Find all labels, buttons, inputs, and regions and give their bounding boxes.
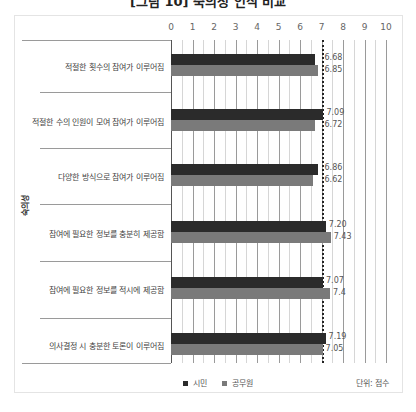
- value-label-citizen: 7.07: [326, 276, 344, 285]
- bar-official: [171, 65, 318, 76]
- x-tick-label: 2: [211, 22, 217, 32]
- major-gridline: [343, 40, 344, 363]
- x-tick-label: 1: [190, 22, 196, 32]
- value-label-official: 6.85: [325, 65, 343, 74]
- value-label-citizen: 7.09: [326, 108, 344, 117]
- bar-citizen: [171, 164, 318, 175]
- major-gridline: [300, 40, 301, 363]
- minor-gridline: [311, 40, 312, 363]
- legend-label-official: 공무원: [232, 379, 253, 388]
- value-label-official: 7.43: [334, 232, 352, 241]
- bar-citizen: [171, 333, 326, 344]
- row-label: 적절한 횟수의 참여가 이루어짐: [65, 61, 164, 72]
- major-gridline: [279, 40, 280, 363]
- legend-item-citizen: 시민: [183, 377, 207, 388]
- legend-label-citizen: 시민: [193, 379, 207, 388]
- minor-gridline: [225, 40, 226, 363]
- x-tick-label: 5: [276, 22, 282, 32]
- value-label-citizen: 6.68: [325, 53, 343, 62]
- y-axis-line: [171, 40, 172, 363]
- bar-citizen: [171, 54, 315, 65]
- legend-item-official: 공무원: [222, 377, 253, 388]
- bar-citizen: [171, 277, 323, 288]
- x-tick-label: 7: [319, 22, 325, 32]
- major-gridline: [193, 40, 194, 363]
- bar-citizen: [171, 221, 326, 232]
- row-label: 다양한 방식으로 참여가 이루어짐: [58, 171, 164, 182]
- major-gridline: [257, 40, 258, 363]
- major-gridline: [236, 40, 237, 363]
- row-label: 적절한 수의 인원이 모여 참여가 이루어짐: [32, 116, 164, 127]
- bar-official: [171, 288, 330, 299]
- unit-label: 단위: 점수: [356, 377, 389, 388]
- bottom-separator: [22, 363, 171, 364]
- x-tick-label: 0: [168, 22, 174, 32]
- top-separator: [22, 40, 171, 41]
- value-label-official: 7.05: [326, 344, 344, 353]
- value-label-citizen: 7.19: [329, 332, 347, 341]
- bar-citizen: [171, 109, 323, 120]
- minor-gridline: [375, 40, 376, 363]
- value-label-official: 6.62: [325, 175, 343, 184]
- minor-gridline: [182, 40, 183, 363]
- minor-gridline: [332, 40, 333, 363]
- chart-title: [그림 10] 숙의성 인식 비교: [0, 0, 416, 10]
- x-tick-label: 4: [254, 22, 260, 32]
- minor-gridline: [289, 40, 290, 363]
- major-gridline: [386, 40, 387, 363]
- bar-official: [171, 175, 313, 186]
- bar-official: [171, 120, 315, 131]
- row-label: 참여에 필요한 정보를 충분히 제공함: [49, 228, 164, 239]
- minor-gridline: [354, 40, 355, 363]
- value-label-official: 6.72: [325, 120, 343, 129]
- minor-gridline: [268, 40, 269, 363]
- row-separator: [40, 318, 171, 319]
- major-gridline: [365, 40, 366, 363]
- row-separator: [40, 261, 171, 262]
- row-separator: [40, 148, 171, 149]
- x-tick-label: 6: [297, 22, 303, 32]
- legend-swatch-citizen: [183, 381, 188, 386]
- minor-gridline: [203, 40, 204, 363]
- minor-gridline: [246, 40, 247, 363]
- row-separator: [40, 204, 171, 205]
- row-label: 의사결정 시 충분한 토론이 이루어짐: [49, 340, 164, 351]
- legend-swatch-official: [222, 381, 227, 386]
- value-label-citizen: 6.86: [325, 163, 343, 172]
- reference-line-7: [322, 40, 324, 363]
- row-label: 참여에 필요한 정보를 적시에 제공함: [49, 284, 164, 295]
- row-separator: [40, 92, 171, 93]
- bar-official: [171, 232, 331, 243]
- value-label-citizen: 7.20: [329, 220, 347, 229]
- x-tick-label: 9: [362, 22, 368, 32]
- value-label-official: 7.4: [333, 288, 346, 297]
- x-tick-label: 8: [340, 22, 346, 32]
- x-tick-label: 10: [380, 22, 391, 32]
- x-tick-label: 3: [233, 22, 239, 32]
- group-label: 숙의성: [19, 186, 30, 226]
- major-gridline: [214, 40, 215, 363]
- bar-official: [171, 344, 323, 355]
